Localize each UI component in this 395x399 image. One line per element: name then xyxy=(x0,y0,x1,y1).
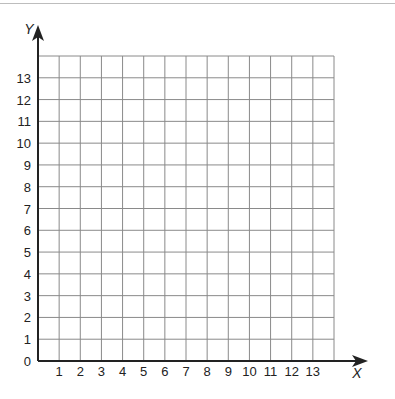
y-tick-label: 7 xyxy=(24,202,31,217)
origin-label: 0 xyxy=(24,354,31,369)
x-tick-label: 6 xyxy=(161,364,168,379)
y-tick-label: 8 xyxy=(24,180,31,195)
x-axis-label: X xyxy=(351,365,362,381)
x-tick-label: 9 xyxy=(225,364,232,379)
y-tick-label: 2 xyxy=(24,310,31,325)
y-tick-label: 13 xyxy=(17,71,31,86)
y-tick-label: 4 xyxy=(24,267,31,282)
x-tick-label: 5 xyxy=(140,364,147,379)
x-tick-label: 3 xyxy=(98,364,105,379)
y-tick-label: 9 xyxy=(24,158,31,173)
x-tick-label: 8 xyxy=(204,364,211,379)
y-tick-label: 3 xyxy=(24,289,31,304)
y-tick-label: 1 xyxy=(24,332,31,347)
x-tick-label: 2 xyxy=(77,364,84,379)
coordinate-grid: 12345678910111213123456789101112130XY xyxy=(0,0,395,399)
x-tick-label: 1 xyxy=(56,364,63,379)
x-tick-label: 4 xyxy=(119,364,126,379)
x-tick-label: 7 xyxy=(182,364,189,379)
y-tick-label: 10 xyxy=(17,136,31,151)
y-tick-label: 6 xyxy=(24,223,31,238)
y-axis-label: Y xyxy=(24,21,35,37)
x-tick-label: 12 xyxy=(284,364,298,379)
y-tick-label: 5 xyxy=(24,245,31,260)
y-tick-label: 12 xyxy=(17,93,31,108)
x-tick-label: 11 xyxy=(264,364,278,379)
y-tick-label: 11 xyxy=(18,114,32,129)
x-tick-label: 13 xyxy=(306,364,320,379)
x-tick-label: 10 xyxy=(242,364,256,379)
